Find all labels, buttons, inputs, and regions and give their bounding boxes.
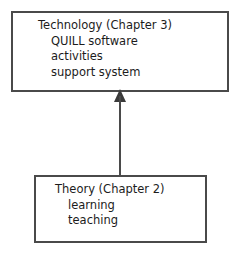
node-technology-item-quill-software: QUILL software	[13, 34, 227, 50]
node-technology-title: Technology (Chapter 3)	[13, 18, 227, 34]
node-technology: Technology (Chapter 3) QUILL software ac…	[11, 11, 229, 92]
node-theory-item-teaching: teaching	[36, 213, 205, 229]
node-theory-title: Theory (Chapter 2)	[36, 182, 205, 198]
arrow-shaft	[119, 96, 121, 175]
node-technology-text: Technology (Chapter 3) QUILL software ac…	[13, 13, 227, 80]
node-theory-text: Theory (Chapter 2) learning teaching	[36, 177, 205, 229]
diagram-canvas: Technology (Chapter 3) QUILL software ac…	[0, 0, 241, 254]
node-technology-item-activities: activities	[13, 49, 227, 65]
node-technology-item-support-system: support system	[13, 65, 227, 81]
node-theory: Theory (Chapter 2) learning teaching	[34, 175, 207, 243]
node-theory-item-learning: learning	[36, 198, 205, 214]
